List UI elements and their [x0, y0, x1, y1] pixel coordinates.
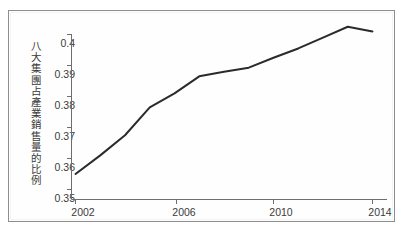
plot-area: [9, 11, 396, 223]
chart-figure: 八大集團占產業銷售量的比例 0.4 0.39 0.38 0.37 0.36 0.…: [0, 0, 407, 231]
figure-frame: 八大集團占產業銷售量的比例 0.4 0.39 0.38 0.37 0.36 0.…: [8, 10, 395, 222]
data-series-line: [76, 27, 373, 174]
